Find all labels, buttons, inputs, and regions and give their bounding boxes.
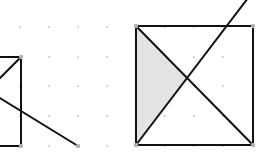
vertex-point [251,143,255,147]
vertex-point [19,55,23,59]
grid-dot [106,26,108,28]
vertex-point [251,24,255,28]
grid-dot [77,26,79,28]
grid-dot [222,56,224,58]
vertex-point [19,144,23,148]
grid-dot [193,115,195,117]
grid-dot [106,56,108,58]
grid-dot [106,145,108,147]
grid-dot [222,85,224,87]
grid-dot [48,56,50,58]
grid-dot [77,85,79,87]
grid-dot [48,145,50,147]
grid-dot [106,115,108,117]
grid-dot [77,115,79,117]
grid-dot [193,56,195,58]
vertex-point [76,144,80,148]
vertex-point [134,24,138,28]
vertex-point [134,143,138,147]
grid-dot [48,26,50,28]
line-segment [0,57,21,88]
grid-dot [48,85,50,87]
left-square-partial-outline [0,57,21,146]
grid-dot [19,26,21,28]
grid-dot [106,85,108,87]
line-segment [0,92,78,146]
grid-dot [77,56,79,58]
geometry-diagram [0,0,256,155]
figure-lines [0,0,253,146]
grid-dot [48,115,50,117]
grid-dot [164,115,166,117]
